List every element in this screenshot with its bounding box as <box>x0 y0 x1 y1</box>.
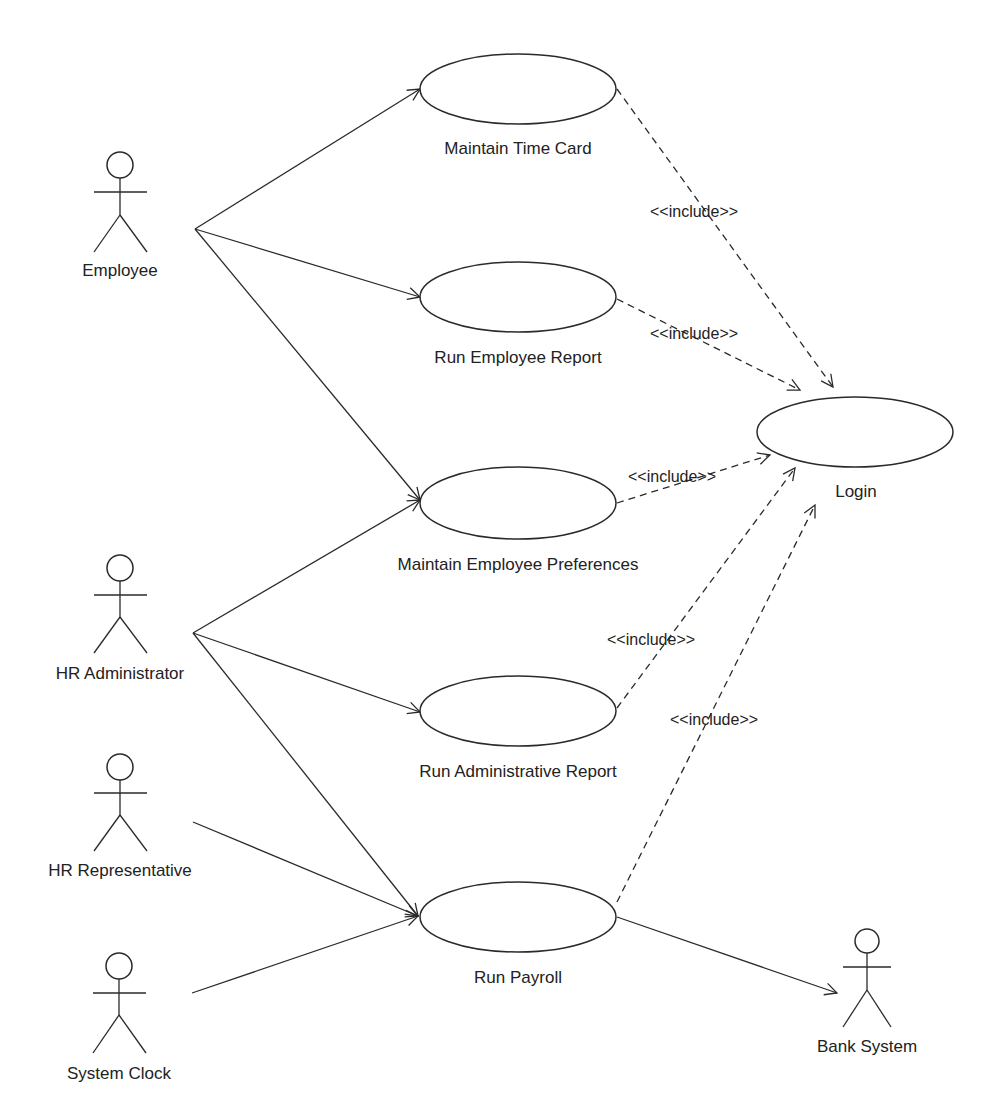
include-timecard-login <box>617 89 833 387</box>
include-label-payroll: <<include>> <box>670 711 758 728</box>
stick-figure-icon <box>94 555 147 653</box>
use-case-run-payroll[interactable]: Run Payroll <box>420 882 616 987</box>
use-case-ellipse[interactable] <box>420 467 616 539</box>
actor-system-clock[interactable]: System Clock <box>67 953 171 1083</box>
use-case-maintain-employee-preferences[interactable]: Maintain Employee Preferences <box>398 467 639 574</box>
include-dependencies: <<include>> <<include>> <<include>> <<in… <box>607 89 833 902</box>
assoc-hradmin-maintain-preferences <box>193 500 420 633</box>
use-case-label: Login <box>835 482 877 501</box>
actor-bank-system[interactable]: Bank System <box>817 929 917 1056</box>
stick-figure-icon <box>93 953 146 1053</box>
include-label-preferences: <<include>> <box>628 468 716 485</box>
use-case-diagram: <<include>> <<include>> <<include>> <<in… <box>0 0 993 1109</box>
stick-figure-icon <box>843 929 891 1027</box>
actor-employee[interactable]: Employee <box>82 152 158 280</box>
use-case-label: Run Administrative Report <box>419 762 617 781</box>
assoc-runpayroll-bank-system <box>617 917 837 993</box>
stick-figure-icon <box>94 152 147 252</box>
include-empreport-login <box>617 299 800 390</box>
use-case-label: Maintain Time Card <box>444 139 591 158</box>
actor-label: Employee <box>82 261 158 280</box>
assoc-employee-maintain-preferences <box>195 229 420 500</box>
use-case-run-administrative-report[interactable]: Run Administrative Report <box>419 676 617 781</box>
include-payroll-login <box>617 505 815 902</box>
actor-label: HR Administrator <box>56 664 185 683</box>
actor-label: Bank System <box>817 1037 917 1056</box>
use-case-run-employee-report[interactable]: Run Employee Report <box>420 262 616 367</box>
use-case-ellipse[interactable] <box>420 54 616 124</box>
assoc-hrrep-run-payroll <box>193 822 418 916</box>
assoc-systemclock-run-payroll <box>192 916 418 993</box>
use-case-ellipse[interactable] <box>420 882 616 952</box>
assoc-hradmin-run-admin-report <box>193 633 420 712</box>
use-case-ellipse[interactable] <box>420 262 616 332</box>
use-case-ellipse[interactable] <box>757 397 953 467</box>
use-case-maintain-time-card[interactable]: Maintain Time Card <box>420 54 616 158</box>
stick-figure-icon <box>94 754 147 851</box>
assoc-hradmin-run-payroll <box>193 633 418 916</box>
use-case-label: Run Payroll <box>474 968 562 987</box>
use-case-ellipse[interactable] <box>420 676 616 746</box>
include-label-adminreport: <<include>> <box>607 631 695 648</box>
include-label-empreport: <<include>> <box>650 325 738 342</box>
actor-hr-administrator[interactable]: HR Administrator <box>56 555 185 683</box>
use-case-label: Run Employee Report <box>434 348 602 367</box>
actor-label: HR Representative <box>48 861 192 880</box>
assoc-employee-maintain-time-card <box>195 89 420 229</box>
include-adminreport-login <box>617 468 795 708</box>
assoc-employee-run-employee-report <box>195 229 420 297</box>
use-case-label: Maintain Employee Preferences <box>398 555 639 574</box>
use-case-login[interactable]: Login <box>757 397 953 501</box>
actor-label: System Clock <box>67 1064 171 1083</box>
actor-hr-representative[interactable]: HR Representative <box>48 754 192 880</box>
include-label-timecard: <<include>> <box>650 203 738 220</box>
